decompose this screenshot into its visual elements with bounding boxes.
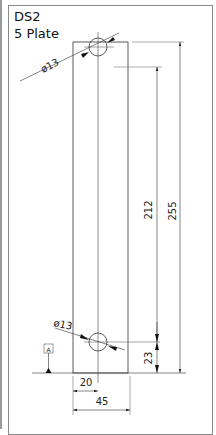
dimension-255-label: 255 [167, 201, 178, 220]
bottom-hole-arrow-left [80, 334, 89, 340]
dimension-23-arrow-top [155, 342, 159, 350]
dimension-23-label: 23 [143, 352, 154, 365]
top-hole-diameter-leader [20, 33, 119, 81]
dimension-23-arrow-up [155, 334, 159, 342]
top-hole-arrow-left [81, 52, 89, 58]
datum-a-triangle [46, 368, 52, 373]
bottom-hole-diameter-label: ø13 [53, 317, 74, 332]
dimension-23-arrow-bottom [155, 365, 159, 373]
dimension-212-label: 212 [143, 200, 154, 219]
top-hole-diameter-label: ø13 [39, 56, 61, 75]
dimension-20-label: 20 [80, 377, 93, 388]
dimension-45-label: 45 [96, 396, 109, 407]
plate-outline [73, 42, 128, 373]
